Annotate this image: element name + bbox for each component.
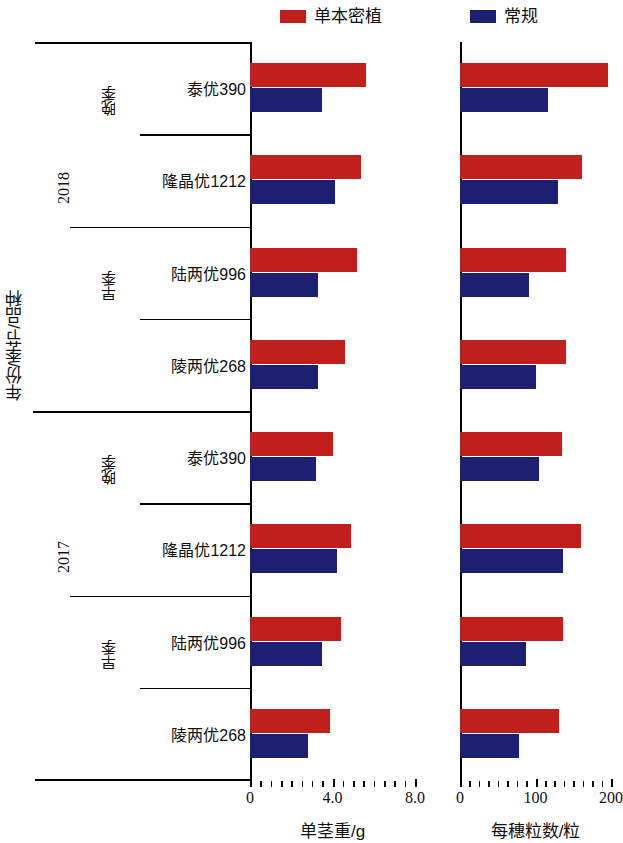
axis-tick — [291, 781, 293, 787]
bar-group — [250, 155, 415, 204]
axis-tick-label: 100 — [524, 789, 548, 807]
bar-dense-planting — [250, 617, 341, 641]
axis-tick-label: 8.0 — [405, 789, 425, 807]
bar-conventional — [250, 642, 322, 666]
bar-group — [250, 524, 415, 573]
y-axis-label-tree: 泰优390隆晶优1212晚季陆两优996陵两优268早季2018泰优390隆晶优… — [0, 42, 250, 782]
axis-tick — [611, 779, 613, 787]
figure-container: 单本密植 常规 年份/季节/品种 泰优390隆晶优1212晚季陆两优996陵两优… — [0, 0, 623, 843]
bar-group — [460, 248, 611, 297]
axis-tick — [602, 781, 604, 787]
axis-tick — [374, 781, 376, 787]
category-label-variety: 陆两优996 — [171, 630, 246, 654]
bar-dense-planting — [460, 248, 566, 272]
bar-conventional — [250, 180, 335, 204]
axis-tick — [260, 781, 262, 787]
axis-tick — [507, 781, 509, 787]
axis-tick — [333, 779, 335, 787]
bar-group — [250, 709, 415, 758]
bar-conventional — [250, 273, 318, 297]
bar-group — [460, 709, 611, 758]
right-panel-tick-labels: 0100200 — [460, 789, 611, 809]
axis-tick — [343, 781, 345, 787]
left-panel-tick-labels: 04.08.0 — [250, 789, 415, 809]
left-panel-x-title: 单茎重/g — [250, 817, 415, 842]
category-label-variety: 陵两优268 — [171, 353, 246, 377]
bar-conventional — [460, 88, 548, 112]
chart-panel-grains-per-panicle: 0100200 每穗粒数/粒 — [460, 42, 611, 780]
bar-conventional — [250, 365, 318, 389]
chart-panel-stem-weight: 04.08.0 单茎重/g — [250, 42, 415, 780]
bar-group — [250, 340, 415, 389]
legend-swatch-navy — [470, 10, 496, 23]
axis-tick — [564, 781, 566, 787]
bar-group — [250, 617, 415, 666]
axis-tick-label: 200 — [599, 789, 623, 807]
bar-dense-planting — [250, 524, 351, 548]
right-panel-x-title: 每穗粒数/粒 — [460, 817, 611, 842]
category-label-variety: 隆晶优1212 — [162, 168, 246, 192]
bar-conventional — [460, 549, 563, 573]
bar-conventional — [460, 365, 536, 389]
bar-conventional — [460, 457, 539, 481]
bar-dense-planting — [250, 155, 361, 179]
axis-tick — [322, 781, 324, 787]
bar-group — [460, 617, 611, 666]
season-divider-tick — [140, 319, 250, 321]
axis-tick — [405, 781, 407, 787]
bar-dense-planting — [460, 63, 608, 87]
axis-tick — [488, 781, 490, 787]
axis-tick — [479, 781, 481, 787]
bar-conventional — [250, 88, 322, 112]
right-panel-ticks — [460, 780, 611, 787]
legend-label-dense-planting: 单本密植 — [314, 8, 382, 25]
bar-dense-planting — [460, 709, 559, 733]
bar-group — [460, 63, 611, 112]
axis-tick — [526, 781, 528, 787]
season-group-divider — [70, 227, 250, 229]
bar-group — [250, 63, 415, 112]
season-divider-tick — [140, 503, 250, 505]
bar-conventional — [460, 273, 529, 297]
legend-label-conventional: 常规 — [504, 8, 538, 25]
bar-conventional — [460, 180, 558, 204]
axis-tick — [281, 781, 283, 787]
axis-tick — [250, 779, 252, 787]
legend-item-dense-planting: 单本密植 — [280, 8, 382, 25]
bar-dense-planting — [250, 63, 366, 87]
legend-item-conventional: 常规 — [470, 8, 538, 25]
axis-tick — [460, 779, 462, 787]
bar-group — [250, 248, 415, 297]
category-label-year: 2018 — [55, 172, 73, 204]
axis-tick — [545, 781, 547, 787]
bar-dense-planting — [460, 617, 563, 641]
axis-tick — [384, 781, 386, 787]
axis-tick — [271, 781, 273, 787]
axis-tick-label: 0 — [456, 789, 464, 807]
category-label-variety: 陆两优996 — [171, 261, 246, 285]
season-divider-tick — [140, 688, 250, 690]
legend-swatch-red — [280, 10, 306, 23]
chart-legend: 单本密植 常规 — [280, 8, 600, 34]
category-label-variety: 陵两优268 — [171, 722, 246, 746]
axis-tick — [592, 781, 594, 787]
season-group-divider — [70, 596, 250, 598]
left-panel-ticks — [250, 780, 415, 787]
category-label-season: 早季 — [98, 640, 119, 670]
season-divider-tick — [140, 134, 250, 136]
axis-tick — [415, 779, 417, 787]
bar-dense-planting — [250, 248, 357, 272]
axis-tick — [536, 779, 538, 787]
category-label-year: 2017 — [55, 541, 73, 573]
axis-tick — [353, 781, 355, 787]
bar-group — [460, 432, 611, 481]
category-label-variety: 泰优390 — [187, 76, 246, 100]
right-panel-y-axis — [460, 42, 462, 780]
category-label-variety: 泰优390 — [187, 445, 246, 469]
bar-dense-planting — [250, 340, 345, 364]
category-label-season: 晚季 — [98, 455, 119, 485]
bar-conventional — [460, 734, 519, 758]
axis-tick-label: 4.0 — [323, 789, 343, 807]
axis-tick — [554, 781, 556, 787]
axis-tick — [363, 781, 365, 787]
